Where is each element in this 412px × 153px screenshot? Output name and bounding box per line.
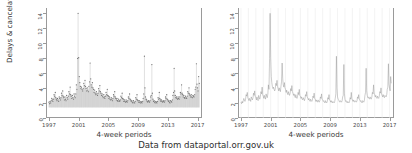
x-tick-label: 2009 (131, 122, 145, 128)
x-tick-label: 2005 (294, 122, 308, 128)
y-tick-label: 14 (230, 13, 235, 20)
y-tick-label: 8 (230, 58, 235, 61)
y-tick-label: 4 (38, 88, 43, 91)
plot-area-left: 02468101214199720012005200920132017 (46, 8, 202, 118)
x-tick-label: 2001 (72, 122, 86, 128)
x-tick (300, 118, 301, 121)
x-tick-label: 2017 (383, 122, 397, 128)
x-axis-label: 4-week periods (46, 131, 202, 139)
y-tick-label: 6 (38, 73, 43, 76)
figure-caption: Data from dataportal.orr.gov.uk (0, 140, 412, 150)
x-tick (330, 118, 331, 121)
x-tick (390, 118, 391, 121)
data-layer-line (238, 8, 394, 118)
x-tick (271, 118, 272, 121)
x-tick (241, 118, 242, 121)
y-tick-label: 12 (230, 28, 235, 35)
x-tick-label: 2013 (161, 122, 175, 128)
y-tick-label: 10 (230, 43, 235, 50)
y-tick-label: 6 (230, 73, 235, 76)
panel-left: Delays & cancelations (%) 02468101214199… (0, 0, 206, 153)
x-tick-label: 2005 (102, 122, 116, 128)
x-axis-label: 4-week periods (238, 131, 394, 139)
data-layer-point-spike (46, 8, 202, 118)
x-tick-label: 2001 (264, 122, 278, 128)
x-tick (79, 118, 80, 121)
panel-right: 02468101214199720012005200920132017 4-we… (206, 0, 412, 153)
y-tick-label: 10 (38, 43, 43, 50)
x-tick-label: 1997 (234, 122, 248, 128)
y-tick-label: 0 (38, 118, 43, 121)
y-tick-label: 8 (38, 58, 43, 61)
y-tick-label: 12 (38, 28, 43, 35)
x-tick (360, 118, 361, 121)
x-tick (138, 118, 139, 121)
x-tick-label: 1997 (42, 122, 56, 128)
x-tick (49, 118, 50, 121)
y-tick-label: 14 (38, 13, 43, 20)
y-tick-label: 4 (230, 88, 235, 91)
y-tick-label: 2 (230, 103, 235, 106)
y-axis-label: Delays & cancelations (%) (6, 0, 14, 63)
x-tick (108, 118, 109, 121)
x-tick-label: 2009 (323, 122, 337, 128)
x-tick-label: 2017 (191, 122, 205, 128)
x-tick (198, 118, 199, 121)
x-tick-label: 2013 (353, 122, 367, 128)
y-tick-label: 2 (38, 103, 43, 106)
x-tick (168, 118, 169, 121)
plot-area-right: 02468101214199720012005200920132017 (238, 8, 394, 118)
figure: Delays & cancelations (%) 02468101214199… (0, 0, 412, 153)
y-tick-label: 0 (230, 118, 235, 121)
